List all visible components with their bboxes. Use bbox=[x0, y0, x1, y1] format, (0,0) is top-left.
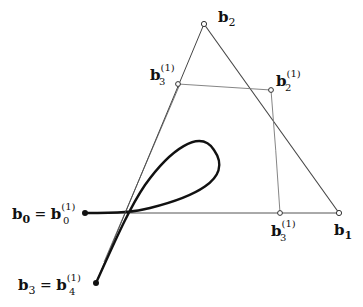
point-b2_1 bbox=[269, 88, 274, 93]
label-b3_1-upper: b(1)3 bbox=[150, 62, 175, 87]
point-b2 bbox=[201, 21, 206, 26]
point-b3 bbox=[93, 280, 99, 286]
bezier-control-polygon-diagram: b2 b(1)3 b(1)2 b0 = b(1)0 b(1)3 b1 b3 = … bbox=[0, 0, 363, 307]
label-b1: b1 bbox=[334, 221, 352, 242]
label-b2_1: b(1)2 bbox=[276, 68, 301, 93]
label-b2: b2 bbox=[218, 8, 236, 29]
point-b0 bbox=[82, 210, 88, 216]
label-b3-equals-b4_1: b3 = b(1)4 bbox=[18, 272, 81, 297]
edge-b1-b2 bbox=[204, 24, 339, 213]
point-b1 bbox=[336, 210, 341, 215]
edge-b2_1-b3_1-lower bbox=[271, 90, 280, 213]
bezier-curve bbox=[85, 141, 219, 283]
point-b3_1-lower bbox=[278, 211, 283, 216]
edge-b3_1-b2_1 bbox=[178, 84, 271, 90]
curve-tangent-thin bbox=[104, 84, 180, 262]
label-b3_1-lower: b(1)3 bbox=[271, 218, 296, 243]
point-b3_1-upper bbox=[176, 82, 181, 87]
label-b0-equals-b0_1: b0 = b(1)0 bbox=[12, 201, 76, 226]
